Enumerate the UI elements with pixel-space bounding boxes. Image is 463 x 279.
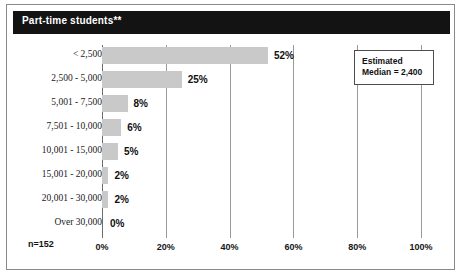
bar-row: 5,001 - 7,5008% [7,94,454,118]
x-tick-label: 0% [95,242,108,252]
bar-value-label: 2% [114,194,128,205]
bar [102,167,108,184]
bar-row: 7,501 - 10,0006% [7,118,454,142]
category-label: 10,001 - 15,000 [6,145,102,155]
bar-value-label: 6% [127,122,141,133]
bar-value-label: 5% [124,146,138,157]
x-tick-label: 40% [221,242,239,252]
category-label: 15,001 - 20,000 [6,169,102,179]
bar-value-label: 0% [110,218,124,229]
x-tick-label: 80% [348,242,366,252]
chart-frame: Part-time students** 0%20%40%60%80%100% … [6,4,455,270]
category-label: 20,001 - 30,000 [6,193,102,203]
sample-size-label: n=152 [28,239,54,249]
category-label: 2,500 - 5,000 [6,73,102,83]
x-tick-label: 60% [284,242,302,252]
category-label: 5,001 - 7,500 [6,97,102,107]
page-title: Part-time students** [22,15,122,26]
chart-title-banner: Part-time students** [13,11,450,34]
bar [102,47,268,64]
bar [102,119,121,136]
plot-area: 0%20%40%60%80%100% < 2,50052%2,500 - 5,0… [7,34,454,269]
x-tick-label: 20% [157,242,175,252]
category-label: Over 30,000 [6,217,102,227]
bar [102,191,108,208]
estimated-median-line2: Median = 2,400 [362,67,427,78]
estimated-median-line1: Estimated [362,56,427,67]
estimated-median-callout: Estimated Median = 2,400 [354,50,434,85]
bar-value-label: 25% [188,74,208,85]
bar-value-label: 8% [134,98,148,109]
category-label: < 2,500 [6,49,102,59]
bar-row: 10,001 - 15,0005% [7,142,454,166]
category-label: 7,501 - 10,000 [6,121,102,131]
bar-value-label: 52% [274,50,294,61]
bar-row: 20,001 - 30,0002% [7,190,454,214]
bar [102,71,182,88]
bar [102,95,128,112]
bar-row: 15,001 - 20,0002% [7,166,454,190]
bar [102,143,118,160]
bar-row: Over 30,0000% [7,214,454,238]
bar-value-label: 2% [114,170,128,181]
x-tick-label: 100% [409,242,432,252]
